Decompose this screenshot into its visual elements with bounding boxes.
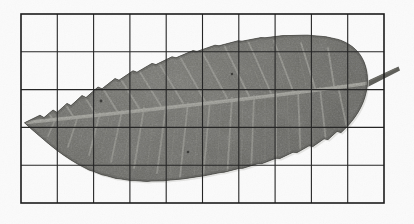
specimen-photograph [0,0,414,224]
leaf-specimen-figure [0,0,414,224]
